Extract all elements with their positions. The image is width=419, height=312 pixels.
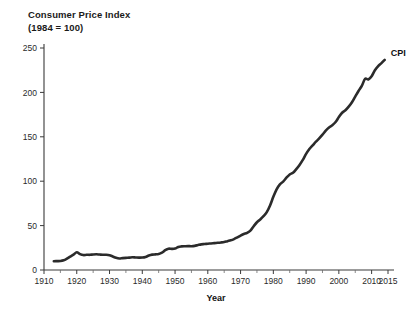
x-axis-tick-label: 1910 [35,276,54,286]
x-axis-title: Year [206,293,226,303]
y-axis-tick-label: 250 [23,43,37,53]
y-axis-tick-label: 200 [23,88,37,98]
x-axis-tick-label: 1920 [67,276,86,286]
series-label-cpi: CPI [391,48,406,58]
cpi-line-series [54,60,385,261]
x-axis-tick-label: 1970 [231,276,250,286]
cpi-chart: Consumer Price Index (1984 = 100) 050100… [0,0,419,312]
y-axis-tick-label: 0 [32,265,37,275]
x-axis-tick-label: 1940 [133,276,152,286]
x-axis-tick-label: 1980 [264,276,283,286]
x-axis-tick-label: 1950 [166,276,185,286]
x-axis: 1910192019301940195019601970198019902000… [35,270,398,286]
y-axis: 050100150200250 [23,43,44,275]
x-axis-tick-label: 1930 [100,276,119,286]
y-axis-tick-label: 50 [28,221,38,231]
y-axis-tick-label: 100 [23,176,37,186]
x-axis-tick-label: 1990 [297,276,316,286]
x-axis-tick-label: 2000 [329,276,348,286]
x-axis-tick-label: 1960 [198,276,217,286]
y-axis-tick-label: 150 [23,132,37,142]
plot-area: 050100150200250 191019201930194019501960… [0,0,419,312]
x-axis-tick-label: 2015 [379,276,398,286]
